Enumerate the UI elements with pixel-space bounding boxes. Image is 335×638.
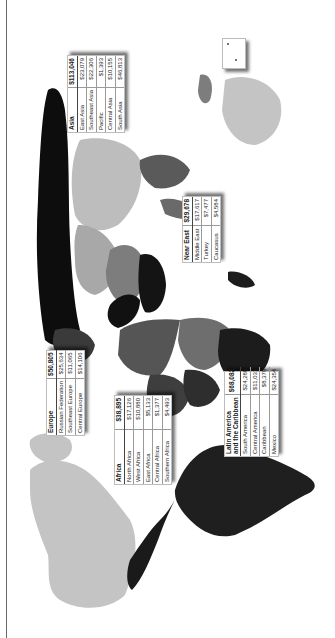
subregion-value: $11,065 [66,350,76,378]
table-row: Pacific$1,393 [96,56,106,132]
region-north-africa [118,319,180,375]
subregion-label: East Africa [143,430,153,484]
world-map [0,0,335,638]
subregion-label: Central America [250,395,260,456]
table-row: Central Europe$14,106 [75,350,84,435]
inset-map-box [222,38,246,69]
region-total: $38,895 [115,396,124,430]
table-row: Southeast Asia$22,306 [87,56,97,132]
subregion-value: $1,377 [153,396,163,430]
region-east-asia [72,138,142,230]
subregion-label: Pacific [96,87,106,132]
table-row: North Africa$17,126 [124,396,134,484]
callout-latin-america: Latin Americaand the Caribbean$68,082 So… [224,371,279,457]
subregion-value: $1,393 [96,56,106,87]
subregion-label: North Africa [124,430,134,484]
table-row: Turkey$7,477 [202,197,212,262]
subregion-value: $23,079 [77,56,87,87]
region-southeast-asia [140,155,190,189]
subregion-label: Central Asia [106,87,116,132]
region-total: $68,082 [225,367,241,395]
subregion-label: Southeast Europe [66,378,76,435]
region-turkey-caucasus [108,295,140,328]
subregion-label: Caucasus [211,226,220,262]
subregion-value: $4,493 [162,396,171,430]
region-pacific-islands [198,75,212,104]
subregion-value: $24,288 [241,367,251,395]
subregion-label: Russian Federation [56,378,66,435]
region-name: Near East [183,226,192,262]
region-australia [222,77,281,145]
subregion-label: Turkey [202,226,212,262]
table-row: South Asia$46,813 [115,56,124,132]
subregion-label: South Asia [115,87,124,132]
subregion-label: East Asia [77,87,87,132]
subregion-label: Southeast Asia [87,87,97,132]
table-row: Mexico$24,354 [269,367,278,456]
table-row: Caribbean$8,379 [260,367,270,456]
subregion-value: $22,306 [87,56,97,87]
subregion-value: $14,106 [75,350,84,378]
callout-europe: Europe$50,805 Russian Federation$25,634 … [46,350,85,436]
subregion-value: $17,126 [124,396,134,430]
subregion-label: West Africa [134,430,144,484]
region-middle-east-arabia [138,254,166,312]
subregion-value: $25,634 [56,350,66,378]
table-row: Southeast Europe$11,065 [66,350,76,435]
region-total: $113,046 [68,56,77,87]
region-name-line2: and the Caribbean [232,397,239,454]
rotated-world-map-page: Asia$113,046 East Asia$23,079 Southeast … [0,0,335,638]
table-row: West Africa$10,880 [134,396,144,484]
subregion-label: Central Africa [153,430,163,484]
table-row: Central Asia$10,155 [106,56,116,132]
table-row: South America$24,288 [241,367,251,456]
region-total: $29,678 [183,197,192,226]
subregion-value: $11,031 [250,367,260,395]
subregion-value: $4,584 [211,197,220,226]
subregion-label: Caribbean [260,395,270,456]
region-madagascar [228,272,255,288]
inset-island [227,43,229,45]
table-row: Central America$11,031 [250,367,260,456]
subregion-label: South America [241,395,251,456]
subregion-value: $10,155 [106,56,116,87]
table-row: Caucasus$4,584 [211,197,220,262]
subregion-value: $7,477 [202,197,212,226]
region-total: $50,805 [47,350,56,378]
subregion-value: $10,880 [134,396,144,430]
subregion-value: $5,133 [143,396,153,430]
subregion-value: $17,617 [192,197,202,226]
callout-near-east: Near East$29,678 Middle East$17,617 Turk… [182,196,221,263]
table-row: Middle East$17,617 [192,197,202,262]
region-name: Asia [68,87,77,132]
subregion-label: Southern Africa [162,430,171,484]
subregion-label: Mexico [269,395,278,456]
subregion-value: $8,379 [260,367,270,395]
table-row: Southern Africa$4,493 [162,396,171,484]
region-name: Europe [47,378,56,435]
subregion-label: Middle East [192,226,202,262]
region-name: Latin Americaand the Caribbean [225,395,241,456]
region-south-america [175,445,315,536]
subregion-label: Central Europe [75,378,84,435]
table-row: Russian Federation$25,634 [56,350,66,435]
region-central-africa [183,370,220,407]
callout-africa: Africa$38,895 North Africa$17,126 West A… [114,395,172,485]
table-row: East Africa$5,133 [143,396,153,484]
region-name: Africa [115,430,124,484]
subregion-value: $46,813 [115,56,124,87]
callout-asia: Asia$113,046 East Asia$23,079 Southeast … [67,55,125,133]
inset-island [235,59,237,61]
table-row: Central Africa$1,377 [153,396,163,484]
region-greenland-canada-arctic [30,433,72,462]
subregion-value: $24,354 [269,367,278,395]
table-row: East Asia$23,079 [77,56,87,132]
